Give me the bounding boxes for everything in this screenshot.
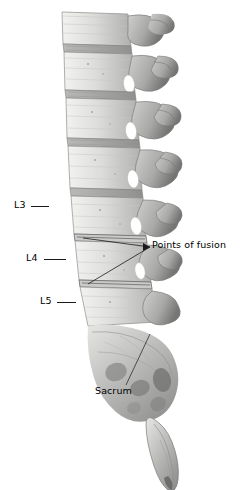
label-sacrum: Sacrum (95, 386, 132, 396)
vertebra-l1 (62, 12, 175, 46)
label-points-of-fusion: Points of fusion (152, 240, 226, 250)
l5-leader-line (57, 302, 76, 303)
vertebra-l5 (80, 287, 180, 326)
vertebral-column (62, 12, 182, 490)
label-l3: L3 (14, 200, 26, 210)
label-l5: L5 (40, 296, 52, 306)
anatomical-figure: L3 L4 L5 Points of fusion Sacrum (0, 0, 241, 490)
vertebra-l2 (64, 52, 178, 94)
coccyx (146, 418, 178, 490)
vertebra-l4 (68, 146, 182, 190)
l3-leader-line (31, 206, 49, 207)
vertebra-l3-segment (71, 196, 182, 237)
vertebra-l3 (66, 98, 181, 141)
l4-leader-line (44, 259, 66, 260)
label-l4: L4 (26, 253, 38, 263)
sacrum (88, 324, 179, 421)
